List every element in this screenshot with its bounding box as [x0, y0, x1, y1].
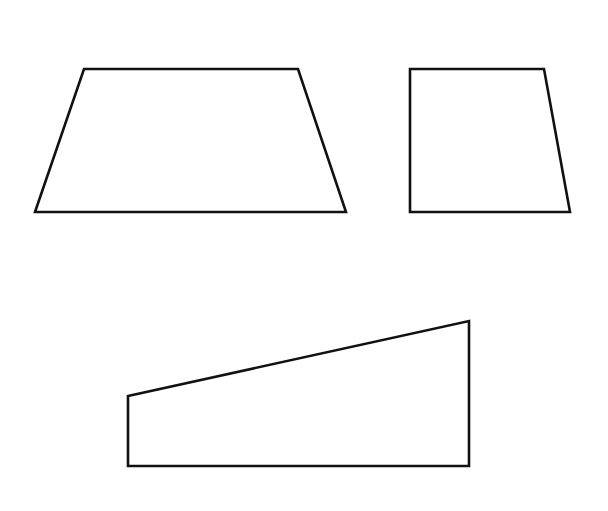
right-trapezoid-wedge-shape	[128, 321, 469, 466]
right-trapezoid-upright-shape	[410, 69, 570, 212]
isosceles-trapezoid-shape	[35, 69, 346, 212]
diagram-canvas	[0, 0, 608, 511]
